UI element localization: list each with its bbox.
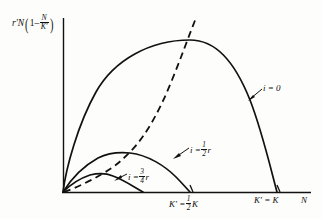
fraction-denominator: 2 (186, 204, 192, 212)
x-tick-label-k-rhs: K (273, 195, 279, 205)
curve-label-i-half-r-lhs: i = (190, 145, 201, 155)
curve-label-i-three-quarter-r-lhs: i = (128, 172, 139, 182)
fraction-denominator: 4 (139, 177, 145, 185)
curve-label-i-half-r-rhs: r (208, 145, 212, 155)
y-axis-label: r′N(1–NK′) (12, 14, 55, 31)
y-axis-label-prefix: r′N (12, 18, 24, 28)
curve-peak-locus (64, 18, 196, 192)
x-tick-label-half-k-rhs: K (192, 199, 198, 209)
curve-label-i-three-quarter-r-fraction: 34 (139, 168, 145, 184)
x-tick-label-k-lhs: K′ = (254, 195, 270, 205)
curve-i-half-r (63, 153, 190, 192)
x-tick-label-k: K′ = K (254, 195, 279, 205)
fraction-denominator: 2 (201, 150, 207, 158)
curve-label-i-0-lhs: i = (263, 83, 274, 93)
curve-label-i-half-r: i =12r (190, 141, 211, 157)
x-tick-label-half-k-lhs: K′ = (169, 199, 185, 209)
x-tick-half-k (190, 185, 193, 192)
curve-label-i-0-rhs: 0 (276, 83, 281, 93)
plot-canvas (0, 0, 322, 219)
x-tick-label-half-k-fraction: 12 (186, 195, 192, 211)
curve-i-0 (63, 40, 277, 192)
curve-label-i-three-quarter-r: i =34r (128, 168, 149, 184)
y-axis-label-fraction: NK′ (40, 14, 49, 31)
x-axis-label: N (301, 195, 307, 205)
curve-label-i-half-r-fraction: 12 (201, 141, 207, 157)
figure-container: r′N(1–NK′) i = 0 i =12r i =34r K′ =12K K… (0, 0, 322, 219)
y-axis-label-minus: – (34, 18, 39, 28)
fraction-denominator: K′ (40, 23, 49, 31)
curve-label-i-three-quarter-r-rhs: r (146, 172, 150, 182)
x-tick-label-half-k: K′ =12K (169, 195, 198, 211)
curve-label-i-0: i = 0 (263, 83, 281, 93)
